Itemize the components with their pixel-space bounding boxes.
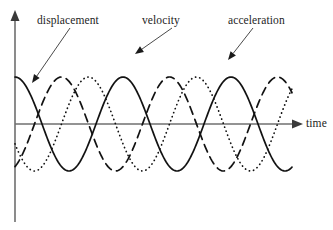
waveform-figure: displacement velocity acceleration time: [0, 0, 333, 230]
callout-line-velocity: [142, 28, 172, 49]
x-axis-arrowhead: [292, 120, 303, 129]
callout-arrowhead-acceleration: [228, 51, 236, 60]
callout-arrowhead-displacement: [32, 74, 40, 83]
label-displacement: displacement: [37, 14, 99, 26]
label-acceleration: acceleration: [228, 14, 285, 26]
label-velocity: velocity: [142, 14, 180, 26]
callout-group: [32, 28, 253, 83]
y-axis-arrowhead: [11, 10, 20, 21]
callout-line-acceleration: [233, 28, 253, 53]
callout-line-displacement: [37, 28, 70, 76]
label-time-axis: time: [306, 117, 327, 129]
plot-canvas: [0, 0, 333, 230]
callout-arrowhead-velocity: [135, 46, 144, 54]
